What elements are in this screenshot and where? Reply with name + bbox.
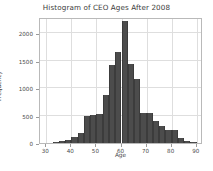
y-tick-label: 0: [0, 141, 33, 147]
plot-area: [39, 18, 202, 144]
y-tick-mark: [36, 62, 39, 63]
y-tick-mark: [36, 89, 39, 90]
y-tick-mark: [36, 34, 39, 35]
x-tick-mark: [45, 144, 46, 147]
x-tick-mark: [95, 144, 96, 147]
x-tick-mark: [70, 144, 71, 147]
x-tick-mark: [171, 144, 172, 147]
x-tick-mark: [121, 144, 122, 147]
y-tick-label: 1500: [0, 59, 33, 65]
y-axis-label: Frequency: [0, 56, 2, 116]
histogram-bar: [190, 142, 196, 143]
x-axis-label: Age: [39, 152, 202, 158]
y-tick-mark: [36, 117, 39, 118]
x-tick-mark: [146, 144, 147, 147]
histogram-bars: [40, 19, 201, 143]
y-tick-mark: [36, 144, 39, 145]
y-tick-label: 2000: [0, 31, 33, 37]
chart-title: Histogram of CEO Ages After 2008: [0, 3, 213, 12]
histogram-figure: Histogram of CEO Ages After 2008 0500100…: [0, 0, 213, 171]
x-tick-mark: [196, 144, 197, 147]
y-tick-label: 1000: [0, 86, 33, 92]
y-tick-label: 500: [0, 114, 33, 120]
